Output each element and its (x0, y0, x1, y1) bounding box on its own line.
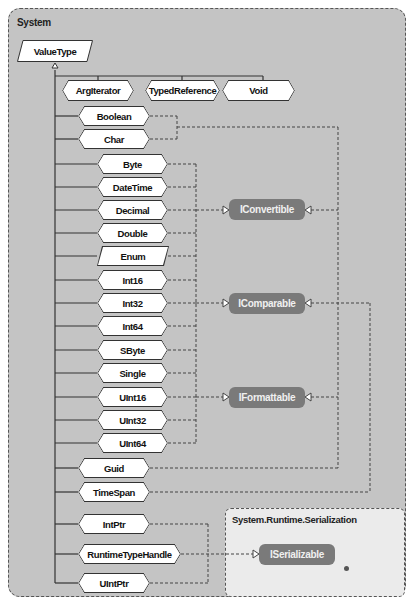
node-uint32-label: UInt32 (119, 415, 146, 426)
node-datetime-label: DateTime (113, 182, 152, 193)
node-double[interactable]: Double (97, 223, 168, 243)
node-datetime[interactable]: DateTime (97, 177, 168, 197)
node-void[interactable]: Void (222, 80, 295, 101)
node-single[interactable]: Single (97, 363, 168, 383)
node-uint16-label: UInt16 (119, 392, 146, 403)
node-int16-label: Int16 (122, 275, 142, 286)
node-decimal[interactable]: Decimal (97, 200, 168, 220)
node-sbyte-label: SByte (120, 345, 145, 356)
node-boolean[interactable]: Boolean (78, 106, 150, 126)
node-uint32[interactable]: UInt32 (97, 410, 168, 430)
node-int64-label: Int64 (122, 321, 142, 332)
node-byte[interactable]: Byte (97, 154, 168, 174)
node-valuetype-label: ValueType (17, 40, 93, 62)
node-guid[interactable]: Guid (78, 458, 150, 478)
node-byte-label: Byte (123, 159, 142, 170)
node-single-label: Single (119, 368, 145, 379)
node-uint64[interactable]: UInt64 (97, 433, 168, 453)
node-guid-label: Guid (104, 463, 124, 474)
node-char[interactable]: Char (78, 129, 150, 149)
node-void-label: Void (249, 85, 267, 96)
node-argiterator[interactable]: ArgIterator (62, 80, 134, 101)
interface-icomparable[interactable]: IComparable (229, 293, 305, 314)
node-int32-label: Int32 (122, 298, 142, 309)
interface-iformattable[interactable]: IFormattable (229, 387, 305, 408)
node-argiterator-label: ArgIterator (76, 85, 121, 96)
node-typedreference-label: TypedReference (149, 85, 217, 96)
node-decimal-label: Decimal (116, 205, 150, 216)
node-timespan[interactable]: TimeSpan (78, 482, 150, 502)
node-boolean-label: Boolean (97, 111, 132, 122)
node-typedreference[interactable]: TypedReference (145, 80, 220, 101)
node-timespan-label: TimeSpan (93, 487, 135, 498)
node-runtimetypehandle[interactable]: RuntimeTypeHandle (78, 544, 181, 564)
node-sbyte[interactable]: SByte (97, 340, 168, 360)
interface-iconvertible[interactable]: IConvertible (229, 199, 305, 220)
node-runtimetypehandle-label: RuntimeTypeHandle (87, 549, 171, 560)
node-valuetype[interactable]: ValueType (17, 40, 93, 62)
node-int64[interactable]: Int64 (97, 316, 168, 336)
node-intptr[interactable]: IntPtr (78, 514, 150, 534)
node-uintptr[interactable]: UIntPtr (78, 573, 150, 593)
node-intptr-label: IntPtr (103, 519, 125, 530)
interface-iserializable[interactable]: ISerializable (259, 544, 335, 565)
node-uint64-label: UInt64 (119, 438, 146, 449)
node-int32[interactable]: Int32 (97, 293, 168, 313)
dot-marker (344, 566, 349, 571)
node-enum[interactable]: Enum (97, 246, 169, 266)
node-double-label: Double (118, 228, 148, 239)
node-uintptr-label: UIntPtr (100, 578, 129, 589)
node-int16[interactable]: Int16 (97, 270, 168, 290)
node-uint16[interactable]: UInt16 (97, 387, 168, 407)
node-char-label: Char (104, 134, 124, 145)
node-enum-label: Enum (121, 251, 146, 262)
